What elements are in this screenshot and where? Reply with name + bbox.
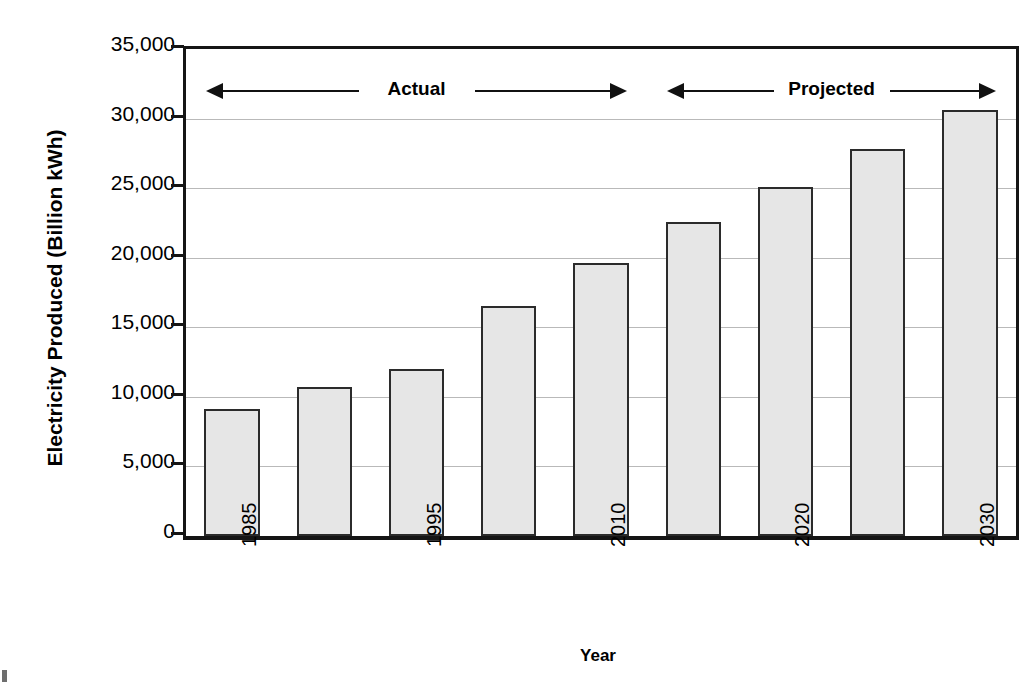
gridline — [186, 119, 1016, 120]
x-axis-tick-label: 1995 — [423, 503, 446, 548]
arrow-right-icon — [979, 83, 996, 99]
span-annotation-label: Projected — [742, 78, 922, 100]
plot-area: ActualProjected — [183, 46, 1019, 540]
bar — [942, 110, 997, 536]
x-axis-tick-label: 2030 — [976, 503, 999, 548]
y-axis-tick-label: 35,000 — [0, 32, 175, 56]
arrow-right-icon — [610, 83, 627, 99]
annotation-line-left — [222, 90, 358, 92]
arrow-left-icon — [667, 83, 684, 99]
y-axis-tick-label: 25,000 — [0, 171, 175, 195]
y-axis-tick-label: 15,000 — [0, 310, 175, 334]
y-axis-tick-label: 20,000 — [0, 241, 175, 265]
y-axis-tick-label: 10,000 — [0, 380, 175, 404]
x-axis-tick-label: 2010 — [607, 503, 630, 548]
scan-artifact — [2, 670, 7, 682]
arrow-left-icon — [206, 83, 223, 99]
y-axis-tick-label: 30,000 — [0, 102, 175, 126]
y-axis-tick-label: 0 — [0, 519, 175, 543]
bar — [666, 222, 721, 536]
bar — [481, 306, 536, 536]
y-axis-tick-label: 5,000 — [0, 449, 175, 473]
bar-chart-figure: Electricity Produced (Billion kWh) Year … — [0, 0, 1034, 682]
annotation-line-right — [475, 90, 611, 92]
bar — [758, 187, 813, 536]
annotation-line-right — [890, 90, 980, 92]
bar — [850, 149, 905, 536]
bar — [573, 263, 628, 536]
x-axis-tick-label: 2020 — [791, 503, 814, 548]
bar — [297, 387, 352, 536]
x-axis-tick-label: 1985 — [238, 503, 261, 548]
span-annotation-label: Actual — [327, 78, 507, 100]
annotation-line-left — [683, 90, 773, 92]
x-axis-title: Year — [183, 646, 1013, 666]
